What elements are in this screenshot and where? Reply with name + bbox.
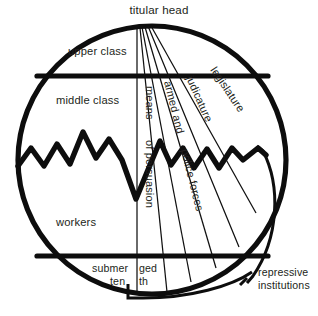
label-titular-head: titular head: [129, 3, 188, 16]
label-workers: workers: [55, 216, 96, 228]
wedge-label-legislature-text: legislature: [208, 64, 247, 114]
label-repressive-line1: repressive: [258, 266, 308, 278]
wedge-label-armed-line1: armed and: [162, 80, 187, 135]
wedge-label-means-line1: means: [144, 86, 156, 120]
label-repressive-line2: institutions: [258, 279, 310, 291]
wedge-label-means-of-persuasion: means of persuasion: [144, 86, 156, 208]
diagram-canvas: titular head upper class middle class wo…: [0, 0, 318, 316]
label-submerged-part4: th: [139, 275, 148, 287]
label-upper-class: upper class: [68, 45, 127, 57]
wedge-label-judicature: judicature: [184, 73, 215, 124]
label-submerged-part1: submer: [92, 262, 129, 274]
social-structure-diagram: titular head upper class middle class wo…: [0, 0, 318, 316]
repressive-bracket-arc: [247, 146, 275, 283]
label-submerged-part2: ged: [139, 262, 157, 274]
wedge-label-judicature-text: judicature: [184, 73, 215, 124]
wedge-label-means-line2: of persuasion: [144, 140, 156, 208]
label-middle-class: middle class: [56, 94, 120, 106]
label-submerged-part3: ten: [110, 275, 125, 287]
wedge-line-4: [148, 26, 239, 247]
wedge-label-legislature: legislature: [208, 64, 247, 114]
